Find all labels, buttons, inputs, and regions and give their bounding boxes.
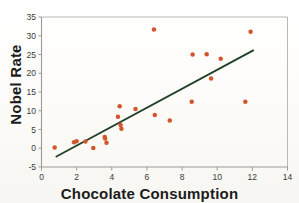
svg-text:8: 8 [180,172,185,182]
svg-text:20: 20 [27,68,37,78]
svg-text:25: 25 [27,50,37,60]
data-point [218,56,223,61]
data-point [52,145,57,150]
data-point [91,146,96,151]
data-points [52,27,252,150]
svg-text:10: 10 [212,172,222,182]
chart-figure: -50510152025303502468101214 Nobel Rate C… [0,0,299,203]
svg-text:30: 30 [27,31,37,41]
y-axis-title: Nobel Rate [7,41,24,129]
data-point [152,27,157,32]
data-point [133,107,138,112]
data-point [243,100,248,105]
data-point [103,136,108,141]
data-point [74,139,79,144]
data-point [209,76,214,81]
svg-text:5: 5 [31,125,36,135]
scatter-plot: -50510152025303502468101214 [0,0,299,203]
data-point [104,140,109,145]
x-axis-ticks: 02468101214 [39,167,292,182]
svg-text:6: 6 [145,172,150,182]
data-point [83,139,88,144]
svg-text:0: 0 [39,172,44,182]
data-point [190,52,195,57]
svg-text:2: 2 [74,172,79,182]
data-point [153,113,158,118]
svg-text:10: 10 [27,106,37,116]
data-point [248,29,253,34]
svg-text:0: 0 [31,143,36,153]
y-axis-ticks: -505101520253035 [27,12,42,172]
data-point [119,127,124,132]
svg-text:14: 14 [283,172,293,182]
svg-text:15: 15 [27,87,37,97]
data-point [118,123,123,128]
data-point [168,118,173,123]
svg-text:-5: -5 [28,162,36,172]
svg-text:4: 4 [109,172,114,182]
data-point [204,52,209,57]
data-point [117,104,122,109]
data-point [189,100,194,105]
x-axis-title: Chocolate Consumption [0,185,299,202]
data-point [116,115,121,120]
svg-text:12: 12 [248,172,258,182]
svg-text:35: 35 [27,12,37,22]
